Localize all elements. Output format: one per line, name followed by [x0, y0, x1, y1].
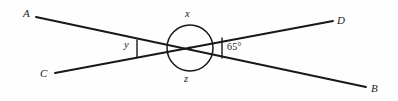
- point-label-d: D: [337, 15, 345, 26]
- angle-label-x: x: [185, 9, 190, 20]
- point-label-b: B: [371, 83, 378, 94]
- geometry-diagram: A D C B x z y 65°: [0, 0, 398, 101]
- point-label-c: C: [40, 68, 47, 79]
- intersection-vertex-point: [188, 46, 191, 49]
- line-c-to-d: [55, 21, 333, 73]
- angle-label-y: y: [124, 40, 129, 51]
- point-label-a: A: [23, 8, 30, 19]
- angle-label-65-degrees: 65°: [227, 42, 242, 52]
- angle-label-z: z: [184, 74, 188, 85]
